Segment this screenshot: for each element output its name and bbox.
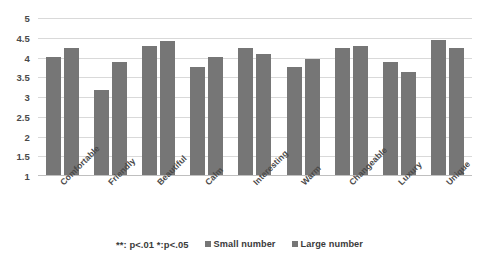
bar-group — [424, 18, 472, 176]
bar[interactable] — [46, 57, 61, 176]
bar[interactable] — [287, 67, 302, 176]
bar[interactable] — [208, 57, 223, 176]
y-axis: 54.543.532.521.51 — [0, 18, 34, 176]
bar[interactable] — [449, 48, 464, 176]
y-axis-tick-label: 2.5 — [16, 111, 30, 122]
bar[interactable] — [238, 48, 253, 176]
legend-swatch-icon — [205, 241, 211, 247]
bar-group — [183, 18, 231, 176]
y-axis-tick-label: 4 — [25, 52, 30, 63]
legend-swatch-icon — [292, 241, 298, 247]
chart-legend: **: p<.01 *:p<.05 Small number Large num… — [0, 232, 479, 256]
bar-group — [327, 18, 375, 176]
bar[interactable] — [431, 40, 446, 176]
bar[interactable] — [64, 48, 79, 176]
legend-label: Small number — [214, 239, 276, 249]
bar-group — [38, 18, 86, 176]
bar[interactable] — [353, 46, 368, 176]
y-axis-tick-label: 3.5 — [16, 72, 30, 83]
bar[interactable] — [94, 90, 109, 176]
bar[interactable] — [190, 67, 205, 176]
x-axis-tick: Beautiful — [134, 176, 182, 224]
bar[interactable] — [383, 62, 398, 176]
x-axis-tick: Warm — [279, 176, 327, 224]
legend-label: Large number — [301, 239, 363, 249]
bar-group — [231, 18, 279, 176]
plot-area — [38, 18, 472, 176]
x-axis-tick: Luxury — [376, 176, 424, 224]
legend-item-large-number[interactable]: Large number — [292, 239, 363, 249]
y-axis-tick-label: 3 — [25, 92, 30, 103]
x-axis-tick: Interesting — [231, 176, 279, 224]
y-axis-tick-label: 1 — [25, 171, 30, 182]
y-axis-tick-label: 5 — [25, 13, 30, 24]
bar[interactable] — [305, 59, 320, 176]
x-axis: ComfortableFriendlyBeautifulCalmInterest… — [38, 176, 472, 224]
y-axis-tick-label: 4.5 — [16, 32, 30, 43]
y-axis-tick-label: 2 — [25, 131, 30, 142]
x-axis-tick: Calm — [183, 176, 231, 224]
x-axis-tick: Changeable — [327, 176, 375, 224]
y-axis-tick-label: 1.5 — [16, 151, 30, 162]
bar[interactable] — [160, 41, 175, 176]
legend-item-small-number[interactable]: Small number — [205, 239, 276, 249]
bar-chart: 54.543.532.521.51 ComfortableFriendlyBea… — [0, 0, 479, 262]
bar-group — [134, 18, 182, 176]
bar[interactable] — [335, 48, 350, 176]
significance-note: **: p<.01 *:p<.05 — [116, 239, 189, 250]
x-axis-tick: Comfortable — [38, 176, 86, 224]
x-axis-tick: Friendly — [86, 176, 134, 224]
bar[interactable] — [112, 62, 127, 176]
bar[interactable] — [142, 46, 157, 176]
x-axis-tick: Unique — [424, 176, 472, 224]
bar-groups — [38, 18, 472, 176]
bar[interactable] — [256, 54, 271, 176]
